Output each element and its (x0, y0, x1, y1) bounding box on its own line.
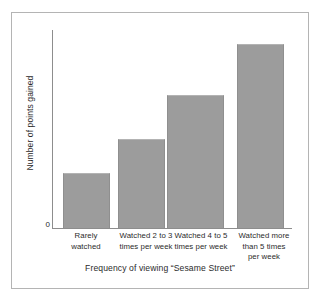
bar-watched-more-than-5-times-per-week (237, 44, 284, 228)
x-tick-label-3: Watched 4 to 5 times per week (165, 231, 237, 252)
bar-watched-4-to-5-times-per-week (167, 95, 224, 228)
x-tick-label-4: Watched more than 5 times per week (230, 231, 298, 263)
bar-watched-2-to-3-times-per-week (118, 139, 165, 228)
x-axis-line (52, 228, 292, 229)
y-axis-tick-label-0: 0 (38, 220, 50, 230)
bars-container (53, 30, 292, 228)
x-tick-label-3-line2: times per week (165, 242, 237, 253)
y-axis-title: Number of points gained (25, 58, 35, 188)
x-axis-title: Frequency of viewing “Sesame Street” (11, 263, 309, 273)
x-tick-label-3-line1: Watched 4 to 5 (165, 231, 237, 242)
x-tick-label-4-line1: Watched more (230, 231, 298, 242)
x-tick-label-4-line3: per week (230, 252, 298, 263)
x-tick-label-4-line2: than 5 times (230, 242, 298, 253)
bar-chart-figure: 0 Number of points gained Rarely watched… (0, 0, 322, 303)
bar-rarely-watched (63, 173, 110, 228)
